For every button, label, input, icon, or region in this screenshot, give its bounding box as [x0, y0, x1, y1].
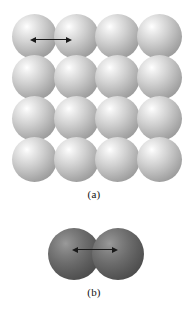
sphere-light — [54, 96, 99, 141]
arrow-shaft — [76, 249, 114, 250]
sphere-light — [12, 96, 57, 141]
panel-a-caption: (a) — [0, 188, 188, 200]
sphere-light — [137, 96, 182, 141]
arrow-head-right-icon — [112, 247, 118, 253]
sphere-light — [54, 137, 99, 182]
sphere-light — [137, 137, 182, 182]
panel-b-caption: (b) — [0, 286, 188, 298]
sphere-dark — [92, 228, 144, 280]
sphere-light — [137, 55, 182, 100]
sphere-light — [95, 14, 140, 59]
sphere-light — [12, 55, 57, 100]
sphere-light — [12, 137, 57, 182]
dark-sphere-pair — [48, 219, 144, 289]
interatomic-distance-arrow-a — [30, 35, 72, 44]
interatomic-distance-arrow-b — [72, 245, 118, 254]
arrow-head-right-icon — [66, 37, 72, 43]
panel-a: (a) — [0, 0, 188, 205]
figure-root: (a) (b) — [0, 0, 188, 314]
sphere-light — [95, 55, 140, 100]
sphere-light — [54, 55, 99, 100]
arrow-shaft — [34, 39, 68, 40]
sphere-light — [95, 137, 140, 182]
sphere-light — [137, 14, 182, 59]
sphere-light — [95, 96, 140, 141]
